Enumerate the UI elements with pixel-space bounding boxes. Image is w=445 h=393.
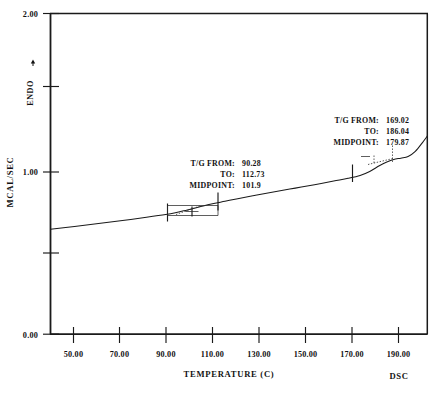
transition-1-line-1-value: 90.28 bbox=[242, 159, 261, 168]
transition-2-line-1-label: T/G FROM: bbox=[334, 116, 379, 125]
x-tick-label-50: 50.00 bbox=[64, 350, 83, 359]
transition-2-line-3-value: 179.87 bbox=[386, 138, 409, 147]
transition-1-line-3-value: 101.9 bbox=[242, 181, 261, 190]
y-axis-title: MCAL/SEC bbox=[5, 157, 15, 208]
instrument-label: DSC bbox=[390, 371, 409, 381]
x-tick-label-190: 190.00 bbox=[387, 350, 411, 359]
x-tick-label-130: 130.00 bbox=[247, 350, 271, 359]
transition-1-line-2-value: 112.73 bbox=[242, 170, 265, 179]
x-axis-title: TEMPERATURE (C) bbox=[184, 369, 275, 379]
x-tick-label-110: 110.00 bbox=[201, 350, 224, 359]
y-tick-label-1-00: 1.00 bbox=[23, 168, 38, 177]
x-tick-label-70: 70.00 bbox=[110, 350, 129, 359]
transition-2-line-2-value: 186.04 bbox=[386, 127, 409, 136]
transition-2-line-3-label: MIDPOINT: bbox=[334, 138, 380, 147]
transition-1-line-1-label: T/G FROM: bbox=[190, 159, 235, 168]
chart-canvas: 2.00 1.00 0.00 MCAL/SEC ENDO 50.00 70.00… bbox=[0, 0, 445, 393]
transition-1-line-2-label: TO: bbox=[220, 170, 235, 179]
y-tick-label-2-00: 2.00 bbox=[23, 10, 38, 19]
x-tick-label-90: 90.00 bbox=[156, 350, 175, 359]
y-tick-label-0-00: 0.00 bbox=[23, 331, 38, 340]
endo-direction-label: ENDO bbox=[26, 80, 35, 106]
dsc-thermogram-chart: 2.00 1.00 0.00 MCAL/SEC ENDO 50.00 70.00… bbox=[0, 0, 445, 393]
transition-1-line-3-label: MIDPOINT: bbox=[190, 181, 236, 190]
x-tick-label-170: 170.00 bbox=[340, 350, 364, 359]
transition-2-line-1-value: 169.02 bbox=[386, 116, 409, 125]
transition-2-line-2-label: TO: bbox=[364, 127, 379, 136]
x-tick-label-150: 150.00 bbox=[294, 350, 318, 359]
